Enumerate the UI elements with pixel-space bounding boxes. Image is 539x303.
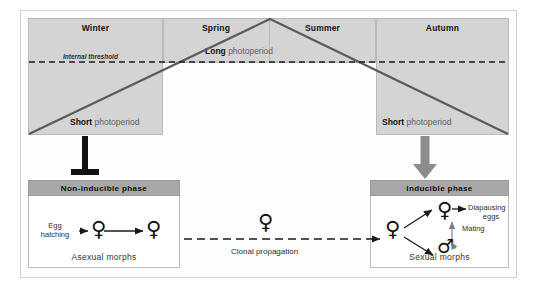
asexual-female-symbol-2: ♀ [146,219,161,240]
non-inducible-phase-header: Non-inducible phase [28,180,180,196]
long-photoperiod-bold: Long [205,46,226,56]
inducible-phase-header: Inducible phase [370,180,509,196]
egg-hatching-line2: hatching [41,230,69,239]
sexual-female-symbol: ♀ [437,200,452,221]
asexual-morphs-caption: Asexual morphs [28,252,180,262]
founder-female-symbol: ♀ [385,219,400,240]
sexual-male-symbol: ♂ [437,237,454,256]
short-photoperiod-label-right: Short photoperiod [382,117,451,127]
long-photoperiod-rest: photoperiod [226,46,273,56]
internal-threshold-label: Internal threshold [63,53,118,60]
short-photoperiod-rest-right: photoperiod [404,117,451,127]
short-photoperiod-bold-left: Short [70,117,92,127]
clonal-female-symbol: ♀ [258,212,273,233]
diapausing-eggs-line2: eggs [468,213,514,222]
clonal-propagation-label: Clonal propagation [231,247,298,256]
season-label-spring: Spring [163,23,269,33]
season-label-autumn: Autumn [376,23,509,33]
egg-hatching-label: Egg hatching [33,222,77,239]
asexual-female-symbol-1: ♀ [91,219,106,240]
season-label-summer: Summer [269,23,376,33]
short-photoperiod-rest-left: photoperiod [92,117,139,127]
mating-label: Mating [462,225,485,234]
figure-root: Winter Spring Summer Autumn Long photope… [0,0,539,303]
short-photoperiod-label-left: Short photoperiod [70,117,139,127]
diapausing-eggs-line1: Diapausing [468,203,506,212]
short-photoperiod-bold-right: Short [382,117,404,127]
long-photoperiod-label: Long photoperiod [205,46,273,56]
season-label-winter: Winter [28,23,163,33]
diapausing-eggs-label: Diapausing eggs [468,204,514,221]
